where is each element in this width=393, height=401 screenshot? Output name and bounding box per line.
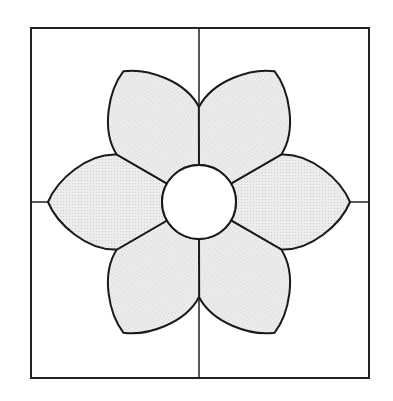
flower-diagram (0, 0, 393, 401)
center-circle (162, 165, 236, 239)
